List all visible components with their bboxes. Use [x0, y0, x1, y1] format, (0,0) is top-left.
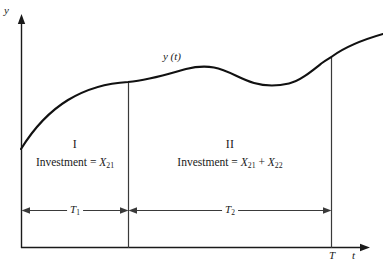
span-t2-sub: 2	[231, 208, 235, 217]
region-label-i: I	[73, 138, 77, 150]
region-ii-eq-plus: +	[256, 156, 268, 168]
span-label-t1: T1	[67, 204, 83, 215]
curve-label: y (t)	[163, 51, 181, 62]
region-label-ii: II	[226, 138, 235, 150]
t-axis-label: t	[352, 250, 355, 261]
figure-canvas	[0, 0, 383, 268]
t-axis	[21, 244, 370, 251]
investment-timeline-figure: y t y (t) I Investment = X21 II Investme…	[0, 0, 383, 268]
region-i-eq-sub1: 21	[106, 161, 114, 170]
region-ii-eq-sub2: 22	[275, 161, 283, 170]
y-axis-label: y	[4, 5, 9, 16]
tick-label-terminal-time: T	[329, 250, 335, 261]
y-of-t-curve	[21, 34, 383, 149]
region-ii-eq-prefix: Investment =	[177, 156, 240, 168]
region-equation-i: Investment = X21	[36, 157, 114, 169]
span-t1-sub: 1	[76, 208, 80, 217]
span-label-t2: T2	[222, 204, 238, 215]
y-axis	[18, 14, 25, 248]
region-ii-eq-sub1: 21	[248, 161, 256, 170]
region-equation-ii: Investment = X21 + X22	[177, 157, 282, 169]
region-i-eq-prefix: Investment =	[36, 156, 99, 168]
